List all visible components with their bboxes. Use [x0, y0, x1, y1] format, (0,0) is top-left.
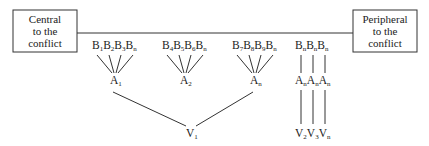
b-labels-group-1: B1B2B3Bn [92, 39, 137, 53]
b-labels-group-2: B4B5B6Bn [162, 39, 207, 53]
group-3: B7B8B9Bn An [232, 39, 277, 88]
conflict-diagram: Central to the conflict Peripheral to th… [0, 0, 429, 146]
peripheral-box-line-3: conflict [368, 37, 402, 49]
b-labels-group-3: B7B8B9Bn [232, 39, 277, 53]
chain-b-labels: BnBnBn [295, 39, 329, 53]
central-box-line-3: conflict [28, 37, 62, 49]
peripheral-box-line-1: Peripheral [362, 13, 407, 25]
a1-to-v1-line [113, 92, 186, 126]
peripheral-box: Peripheral to the conflict [353, 10, 417, 52]
central-box-line-1: Central [29, 13, 61, 25]
chain-v-labels: V2V3Vn [295, 127, 331, 141]
a-label-1: A1 [110, 74, 122, 88]
group-1: B1B2B3Bn A1 [92, 39, 137, 88]
central-box: Central to the conflict [13, 10, 77, 52]
chain-a-labels: AnAnAn [295, 74, 331, 88]
a-label-2: A2 [180, 74, 192, 88]
an-to-v1-line [196, 92, 253, 126]
a-label-n: An [250, 74, 262, 88]
v-label-1: V1 [186, 127, 198, 141]
group-2: B4B5B6Bn A2 [162, 39, 207, 88]
peripheral-box-line-2: to the [373, 25, 398, 37]
independent-chains: BnBnBn AnAnAn V2V3Vn [295, 39, 331, 141]
central-box-line-2: to the [33, 25, 58, 37]
